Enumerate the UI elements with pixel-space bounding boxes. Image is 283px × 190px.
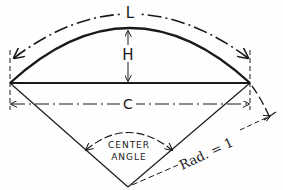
height-label: H — [122, 46, 133, 64]
left-radius — [10, 83, 128, 187]
diagram-svg: L H C CENTER ANGLE — [0, 0, 283, 190]
circular-segment-diagram: L H C CENTER ANGLE — [0, 0, 283, 190]
right-radius — [128, 83, 250, 187]
center-angle-label-line1: CENTER — [108, 140, 150, 150]
arc-length-label: L — [126, 4, 135, 22]
radius-label: Rad. = 1 — [177, 135, 236, 173]
radius-dimension — [132, 86, 276, 185]
center-angle-label-line2: ANGLE — [111, 152, 147, 162]
chord-label: C — [123, 96, 133, 112]
